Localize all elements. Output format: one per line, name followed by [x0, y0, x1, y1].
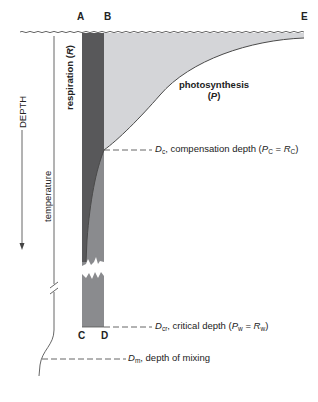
- point-label-a: A: [77, 11, 84, 22]
- point-label-c: C: [78, 330, 85, 341]
- photosynthesis-label: photosynthesis (P): [176, 79, 252, 101]
- point-label-d: D: [101, 330, 108, 341]
- respiration-label: respiration (R): [64, 45, 75, 110]
- water-surface: [20, 31, 304, 32]
- compensation-depth-label: Dc, compensation depth (PC = RC): [155, 143, 298, 155]
- critical-depth-label: Dcr, critical depth (Pw = Rw): [155, 320, 268, 332]
- point-label-e: E: [301, 11, 308, 22]
- point-label-b: B: [104, 11, 111, 22]
- mixing-depth-label: Dm, depth of mixing: [128, 352, 210, 364]
- depth-axis-label: DEPTH: [17, 96, 28, 128]
- temperature-label: temperature: [42, 171, 53, 222]
- depth-arrow-head: [20, 243, 25, 250]
